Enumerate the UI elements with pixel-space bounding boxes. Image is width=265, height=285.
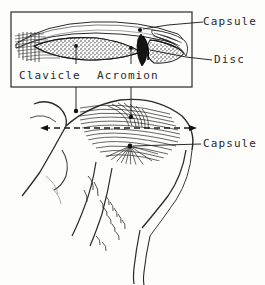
section-arrow-left — [40, 125, 48, 131]
forearm-contour-right — [144, 236, 151, 285]
capsule-body-dot — [128, 144, 133, 149]
label-disc: Disc — [214, 54, 245, 65]
label-acromion: Acromion — [97, 70, 159, 81]
axilla-contour — [72, 162, 96, 236]
capsule-top-leader — [143, 22, 203, 29]
shoulder-illustration — [22, 99, 201, 285]
label-clavicle: Clavicle — [19, 70, 81, 81]
axillary-hatching — [96, 196, 125, 251]
arm-outer-contour-2 — [150, 150, 192, 236]
label-capsule-bottom: Capsule — [203, 138, 257, 149]
anatomical-figure: Capsule Disc Clavicle Acromion Capsule — [0, 0, 265, 285]
chest-shading — [46, 176, 61, 204]
clavicle-bone — [30, 34, 145, 64]
sternal-detail — [84, 176, 98, 202]
acromion-dot — [129, 46, 133, 50]
label-capsule-top: Capsule — [203, 16, 257, 27]
forearm-contour-left — [134, 230, 141, 284]
arm-inner-contour — [90, 168, 112, 246]
neck-crease — [30, 116, 56, 122]
capsule-top-dot — [138, 28, 142, 32]
deltoid-hatching — [80, 103, 180, 173]
clavicle-dot — [74, 44, 78, 48]
pectoral-fold — [54, 150, 67, 190]
clavicle-body-dot — [74, 109, 78, 113]
section-arrow-right — [189, 125, 197, 131]
articular-disc — [137, 34, 148, 66]
neck-contour — [34, 102, 66, 126]
